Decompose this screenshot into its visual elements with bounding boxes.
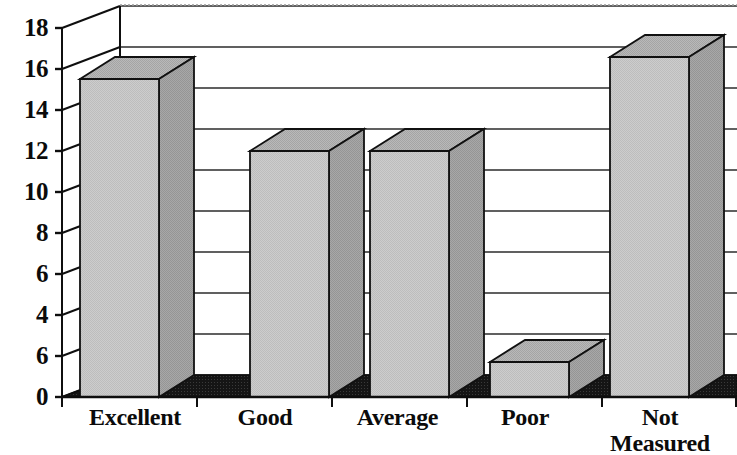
y-tick-label-16: 16 bbox=[0, 55, 48, 83]
y-tick-label-14: 14 bbox=[0, 96, 48, 124]
x-label-average: Average bbox=[325, 404, 470, 430]
y-tick-label-2: 6 bbox=[0, 342, 48, 370]
y-axis-ticks bbox=[55, 28, 62, 397]
bar-average[interactable] bbox=[370, 129, 484, 397]
bar-not-measured[interactable] bbox=[610, 35, 724, 397]
x-label-poor-line1: Poor bbox=[501, 404, 549, 430]
y-tick-label-12: 12 bbox=[0, 137, 48, 165]
x-label-excellent: Excellent bbox=[55, 404, 215, 430]
x-label-not-measured-line2: Measured bbox=[610, 430, 710, 455]
bar-excellent[interactable] bbox=[80, 57, 194, 397]
x-label-not-measured-line1: Not bbox=[642, 404, 678, 430]
y-tick-label-6: 6 bbox=[0, 260, 48, 288]
x-label-average-line1: Average bbox=[357, 404, 438, 430]
x-label-not-measured: Not Measured bbox=[585, 404, 735, 455]
x-label-excellent-line1: Excellent bbox=[89, 404, 181, 430]
bar-good[interactable] bbox=[250, 129, 364, 397]
x-label-poor: Poor bbox=[465, 404, 585, 430]
x-label-good: Good bbox=[200, 404, 330, 430]
y-tick-label-8: 8 bbox=[0, 219, 48, 247]
x-label-good-line1: Good bbox=[238, 404, 293, 430]
y-tick-label-10: 10 bbox=[0, 178, 48, 206]
y-tick-label-0: 0 bbox=[0, 383, 48, 411]
y-tick-label-18: 18 bbox=[0, 14, 48, 42]
y-tick-label-4: 4 bbox=[0, 301, 48, 329]
